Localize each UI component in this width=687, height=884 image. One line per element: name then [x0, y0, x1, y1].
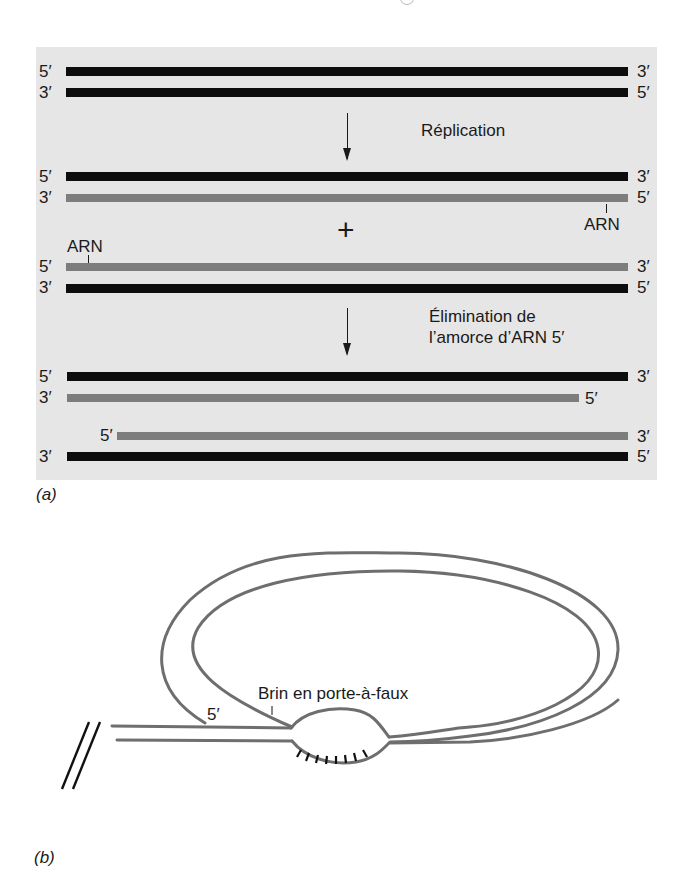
- bubble-top: [291, 709, 389, 737]
- five-prime-end-label: 5′: [207, 706, 220, 723]
- panel-label-b: (b): [34, 848, 55, 868]
- duplex-bottom-strand: [117, 740, 292, 741]
- overhang-strand-label: Brin en porte-à-faux: [258, 683, 408, 704]
- inner-loop-strand: [193, 571, 599, 737]
- panel-b-overhang-diagram: [0, 0, 687, 884]
- duplex-top-strand: [112, 726, 291, 728]
- break-marks-icon: [62, 722, 100, 789]
- outer-loop-strand: [162, 553, 618, 742]
